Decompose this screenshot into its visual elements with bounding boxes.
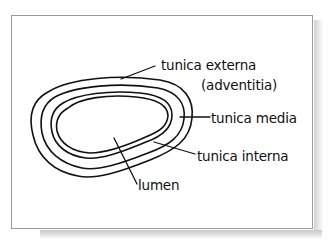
label-tunica-media: tunica media (211, 110, 297, 126)
vessel-diagram: tunica externa (adventitia) tunica media… (0, 0, 329, 243)
vessel-media-interna-curve (51, 92, 172, 158)
label-tunica-interna: tunica interna (197, 148, 288, 164)
vessel-lumen-curve (56, 96, 168, 153)
label-lumen: lumen (138, 177, 179, 193)
label-tunica-externa: tunica externa (161, 57, 256, 73)
label-adventitia: (adventitia) (201, 77, 277, 93)
